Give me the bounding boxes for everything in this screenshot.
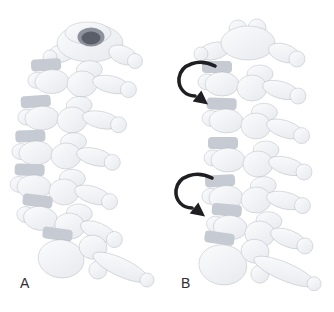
panel-label-a: A bbox=[20, 276, 30, 290]
panel-b-drawing bbox=[176, 19, 326, 299]
vertebra-c1 bbox=[194, 19, 305, 67]
panel-a-drawing bbox=[9, 22, 159, 291]
vertebra-c7 bbox=[36, 226, 160, 291]
spine-illustration bbox=[0, 0, 334, 312]
figure-canvas: A B bbox=[0, 0, 334, 312]
vertebra-c3 bbox=[201, 97, 310, 144]
panel-label-b: B bbox=[181, 276, 191, 290]
vertebra-c4 bbox=[204, 137, 312, 180]
